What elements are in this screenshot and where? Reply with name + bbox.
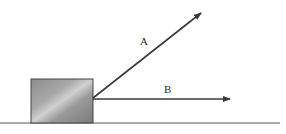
vector-b-label: B: [164, 83, 171, 95]
vector-a-label: A: [140, 35, 148, 47]
force-diagram: A B: [0, 0, 286, 134]
block: [31, 79, 93, 123]
vector-a-arrow: [93, 13, 201, 98]
